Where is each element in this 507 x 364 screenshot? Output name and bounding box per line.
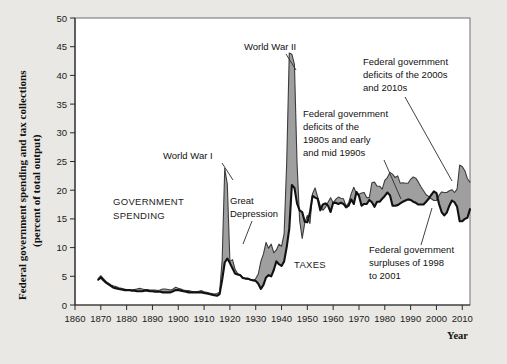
series-label-spending-line1: GOVERNMENT — [113, 196, 184, 207]
x-tick-label: 1910 — [194, 313, 215, 324]
y-tick-label: 15 — [56, 213, 67, 224]
x-tick-label: 2000 — [426, 313, 447, 324]
y-tick-label: 45 — [56, 41, 67, 52]
x-tick-label: 1900 — [168, 313, 189, 324]
x-tick-label: 2010 — [452, 313, 473, 324]
series-label-spending-line2: SPENDING — [113, 210, 165, 221]
y-tick-label: 20 — [56, 185, 67, 196]
chart-svg: 0510152025303540455018601870188018901900… — [0, 0, 507, 364]
x-tick-label: 1920 — [219, 313, 240, 324]
y-tick-label: 5 — [62, 271, 67, 282]
annotation-deficits-1980s-line4: and mid 1990s — [303, 147, 366, 158]
x-tick-label: 1960 — [323, 313, 344, 324]
annotation-surpluses-line3: to 2001 — [369, 270, 401, 281]
x-tick-label: 1940 — [271, 313, 292, 324]
y-tick-label: 35 — [56, 99, 67, 110]
annotation-deficits-2000s-line3: and 2010s — [363, 82, 408, 93]
chart-figure: 0510152025303540455018601870188018901900… — [0, 0, 507, 364]
chart-canvas: 0510152025303540455018601870188018901900… — [0, 0, 507, 364]
y-tick-label: 30 — [56, 127, 67, 138]
y-axis-title-line2: (percent of total output) — [30, 134, 43, 247]
x-tick-label: 1970 — [348, 313, 369, 324]
y-tick-label: 40 — [56, 70, 67, 81]
y-tick-label: 25 — [56, 156, 67, 167]
annotation-world-war-1-text: World War I — [163, 150, 213, 161]
annotation-deficits-1980s-line2: deficits of the — [303, 121, 359, 132]
annotation-deficits-2000s-line1: Federal government — [363, 56, 448, 67]
x-tick-label: 1890 — [142, 313, 163, 324]
x-tick-label: 1860 — [64, 313, 85, 324]
y-axis-title-line1: Federal government spending and tax coll… — [16, 70, 28, 300]
y-tick-label: 10 — [56, 242, 67, 253]
annotation-world-war-2-text: World War II — [244, 41, 296, 52]
annotation-great-depression-line1: Great — [230, 195, 254, 206]
annotation-surpluses-line2: surpluses of 1998 — [369, 257, 444, 268]
x-tick-label: 1930 — [245, 313, 266, 324]
y-tick-label: 0 — [62, 300, 67, 311]
annotation-deficits-2000s-line2: deficits of the 2000s — [363, 69, 448, 80]
series-label-taxes: TAXES — [294, 259, 326, 270]
x-tick-label: 1990 — [400, 313, 421, 324]
annotation-deficits-1980s-line1: Federal government — [303, 108, 388, 119]
x-tick-label: 1980 — [374, 313, 395, 324]
y-tick-label: 50 — [56, 13, 67, 24]
annotation-great-depression-line2: Depression — [230, 208, 278, 219]
x-tick-label: 1880 — [116, 313, 137, 324]
annotation-deficits-1980s-line3: 1980s and early — [303, 134, 371, 145]
x-axis-title: Year — [447, 330, 468, 341]
x-tick-label: 1950 — [297, 313, 318, 324]
x-tick-label: 1870 — [90, 313, 111, 324]
annotation-surpluses-line1: Federal government — [369, 244, 454, 255]
